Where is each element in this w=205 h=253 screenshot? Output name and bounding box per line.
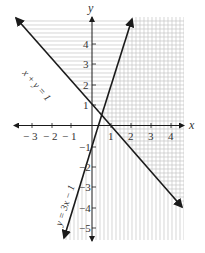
line-x-plus-y-eq-1-lower bbox=[99, 112, 182, 207]
y-tick-label: −3 bbox=[79, 182, 91, 193]
x-tick-label: − 2 bbox=[43, 131, 57, 142]
y-axis-label: y bbox=[88, 2, 93, 14]
x-tick-label: 4 bbox=[168, 131, 174, 142]
graph-canvas bbox=[0, 0, 205, 253]
x-axis-label: x bbox=[189, 119, 194, 131]
x-tick-label: 2 bbox=[128, 131, 134, 142]
x-tick-label: 3 bbox=[148, 131, 154, 142]
y-tick-label: −1 bbox=[79, 142, 91, 153]
x-tick-label: − 1 bbox=[62, 131, 76, 142]
y-tick-label: 2 bbox=[83, 80, 89, 91]
x-tick-label: 1 bbox=[108, 131, 114, 142]
y-tick-label: −2 bbox=[79, 162, 91, 173]
y-tick-label: 1 bbox=[83, 100, 89, 111]
y-tick-label: 3 bbox=[83, 59, 89, 70]
y-tick-label: −4 bbox=[79, 203, 91, 214]
y-tick-label: 4 bbox=[83, 39, 89, 50]
y-tick-label: −5 bbox=[79, 223, 91, 234]
x-tick-label: − 3 bbox=[23, 131, 37, 142]
